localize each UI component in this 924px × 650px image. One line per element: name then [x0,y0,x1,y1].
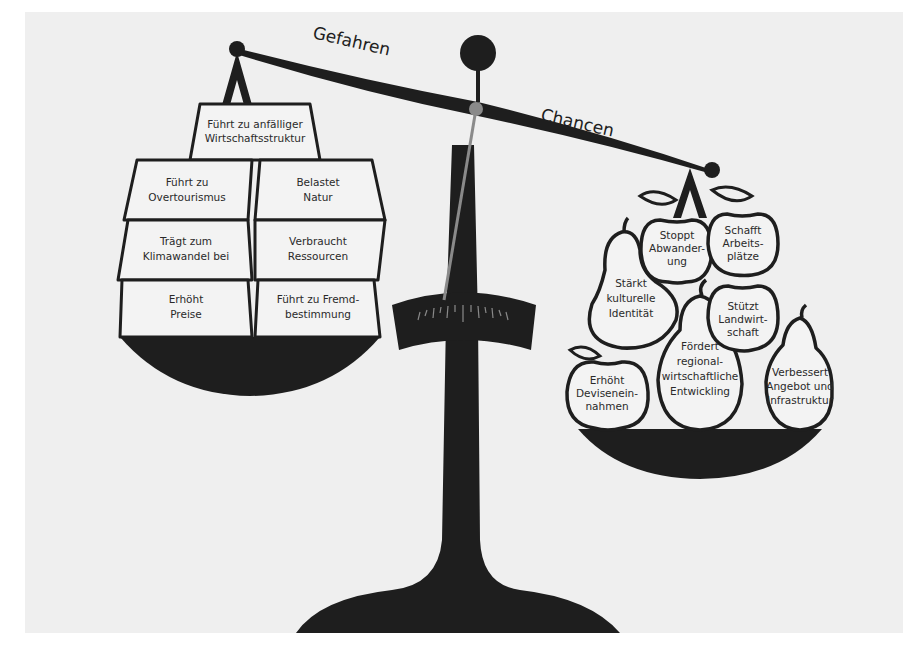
fruit-text: Fördert [681,340,719,352]
fruit-text: Stützt [727,300,758,312]
fruit-text: kulturelle [607,292,656,304]
fruit-text: regional- [677,355,724,367]
top-knob [460,35,496,71]
block-text: Führt zu [166,176,209,188]
balance-scale-diagram: Gefahren Chancen Führt zu anfälliger Wir… [0,0,924,650]
fruit-text: Erhöht [590,374,625,386]
fruit-text: plätze [727,250,759,262]
fruit-text: ung [667,255,687,267]
fruit-text: Schafft [725,224,762,236]
fruit-text: schaft [727,326,759,338]
block-text: Preise [170,308,202,320]
block-text: Führt zu anfälliger [207,118,303,130]
fruit-text: Devisenein- [576,387,638,399]
block-text: Trägt zum [159,235,212,247]
block-text: Verbraucht [289,235,347,247]
fruit-text: Angebot und [766,380,833,392]
block-text: Overtourismus [148,191,226,203]
fruit-text: Landwirt- [718,313,768,325]
fruit-text: Stoppt [660,229,695,241]
fruit-text: wirtschaftliche [662,370,739,382]
block-text: bestimmung [285,308,351,320]
block-text: Belastet [296,176,339,188]
block-text: Erhöht [169,293,204,305]
fruit-text: nahmen [585,400,628,412]
diagram-canvas: Gefahren Chancen Führt zu anfälliger Wir… [0,0,924,650]
fruit-text: Stärkt [615,277,647,289]
block-text: Ressourcen [288,250,348,262]
right-beam-end [704,162,720,178]
block-text: Führt zu Fremd- [277,293,360,305]
block-text: Klimawandel bei [143,250,229,262]
fruit-text: Infrastruktur [767,394,834,406]
block-text: Natur [303,191,333,203]
fruit-text: Abwander- [649,242,705,254]
fruit-text: Arbeits- [723,237,764,249]
fruit-text: Verbessert [772,366,828,378]
fruit-text: Identität [609,307,654,319]
block-text: Wirtschaftsstruktur [205,132,306,144]
fruit-text: Entwickling [670,385,730,397]
